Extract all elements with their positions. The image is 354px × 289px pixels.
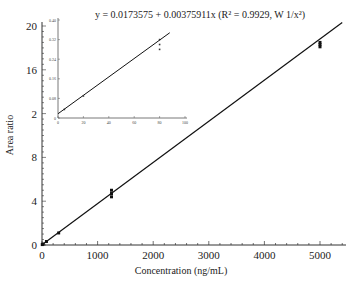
inset-x-tick-label: 40 [107, 120, 111, 125]
x-tick-label: 0 [39, 249, 45, 261]
inset-y-tick-label: 0 [54, 116, 56, 121]
inset-x-tick-label: 0 [57, 120, 59, 125]
regression-equation: y = 0.0173575 + 0.00375911x (R² = 0.9929… [95, 9, 305, 21]
inset-data-point [159, 44, 161, 46]
inset-y-tick-label: 0.08 [49, 96, 56, 101]
main-axes: 01000200030004000500004821620 [26, 20, 346, 261]
inset-plot-area [58, 33, 170, 114]
y-axis-title: Area ratio [4, 115, 15, 155]
data-point [45, 240, 48, 243]
inset-x-tick-label: 20 [81, 120, 85, 125]
inset-data-point [159, 49, 161, 51]
x-tick-label: 3000 [198, 249, 221, 261]
fit-line [42, 22, 342, 244]
inset-y-tick-label: 0.32 [49, 37, 56, 42]
y-tick-label: 16 [26, 64, 38, 76]
inset-data-point [159, 39, 161, 41]
data-point [110, 195, 113, 198]
inset-data-point [83, 95, 85, 97]
inset-x-tick-label: 100 [182, 120, 188, 125]
x-axis-title: Concentration (ng/mL) [135, 265, 227, 277]
x-tick-label: 1000 [87, 249, 110, 261]
data-point [110, 189, 113, 192]
y-tick-label: 0 [32, 239, 38, 251]
x-tick-label: 4000 [253, 249, 276, 261]
data-point [319, 41, 322, 44]
inset-y-tick-label: 0.16 [49, 76, 56, 81]
data-point [110, 192, 113, 195]
y-tick-label: 8 [32, 151, 38, 163]
y-tick-label: 4 [32, 195, 38, 207]
inset-y-tick-label: 0.24 [49, 57, 56, 62]
x-tick-label: 5000 [309, 249, 332, 261]
y-tick-label: 20 [26, 20, 38, 32]
y-tick-label: 2 [32, 108, 38, 120]
inset-y-tick-label: 0.40 [49, 18, 56, 23]
inset-x-tick-label: 80 [158, 120, 162, 125]
inset-fit-line [58, 33, 170, 114]
inset-axes: 02040608010000.080.160.240.320.40 [49, 18, 188, 126]
calibration-chart: 01000200030004000500004821620 0204060801… [0, 0, 354, 289]
data-point [57, 231, 60, 234]
inset-data-point [64, 109, 66, 111]
x-tick-label: 2000 [142, 249, 165, 261]
data-point [42, 243, 45, 246]
inset-x-tick-label: 60 [132, 120, 136, 125]
main-plot-area [41, 22, 342, 246]
